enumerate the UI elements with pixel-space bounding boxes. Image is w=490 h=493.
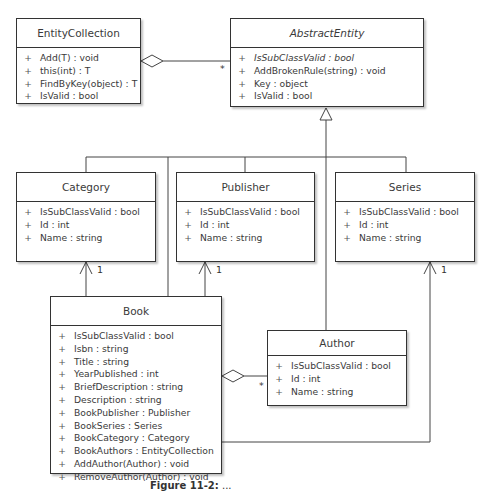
visibility-marker: + <box>339 219 355 232</box>
member-row: +Id : int <box>17 219 155 232</box>
visibility-marker: + <box>54 356 70 369</box>
class-members: +IsSubClassValid : bool +Id : int +Name … <box>268 356 406 398</box>
visibility-marker: + <box>20 206 36 219</box>
class-name: Series <box>336 173 474 202</box>
visibility-marker: + <box>234 65 250 78</box>
visibility-marker: + <box>271 373 287 386</box>
class-abstractentity[interactable]: AbstractEntity +IsSubClassValid : bool +… <box>230 18 424 107</box>
member-row: +IsSubClassValid : bool <box>177 206 314 219</box>
member-text: IsValid : bool <box>254 90 312 101</box>
member-row: +BriefDescription : string <box>51 381 221 394</box>
member-text: this(int) : T <box>40 65 90 76</box>
visibility-marker: + <box>234 52 250 65</box>
class-members: +Add(T) : void +this(int) : T +FindByKey… <box>17 48 140 103</box>
member-text: IsSubClassValid : bool <box>254 52 354 63</box>
member-row: +IsSubClassValid : bool <box>17 206 155 219</box>
visibility-marker: + <box>54 368 70 381</box>
member-row: +YearPublished : int <box>51 368 221 381</box>
multiplicity-label: * <box>259 380 264 391</box>
member-text: YearPublished : int <box>74 368 159 379</box>
member-row: +Name : string <box>177 232 314 245</box>
class-publisher[interactable]: Publisher +IsSubClassValid : bool +Id : … <box>176 172 315 262</box>
visibility-marker: + <box>339 206 355 219</box>
visibility-marker: + <box>54 471 70 484</box>
member-row: +Description : string <box>51 394 221 407</box>
member-row: +Title : string <box>51 356 221 369</box>
member-row: +IsValid : bool <box>17 90 140 103</box>
aggregation-diamond-icon <box>141 55 163 67</box>
visibility-marker: + <box>54 343 70 356</box>
member-text: Key : object <box>254 78 308 89</box>
visibility-marker: + <box>54 420 70 433</box>
visibility-marker: + <box>180 206 196 219</box>
class-members: +IsSubClassValid : bool +Id : int +Name … <box>17 202 155 244</box>
visibility-marker: + <box>54 432 70 445</box>
visibility-marker: + <box>339 232 355 245</box>
member-row: +Id : int <box>268 373 406 386</box>
member-row: +BookPublisher : Publisher <box>51 407 221 420</box>
class-members: +IsSubClassValid : bool +AddBrokenRule(s… <box>231 48 423 103</box>
member-row: +BookAuthors : EntityCollection <box>51 445 221 458</box>
member-text: BookCategory : Category <box>74 432 190 443</box>
visibility-marker: + <box>234 78 250 91</box>
member-text: AddAuthor(Author) : void <box>74 458 189 469</box>
member-row: +Isbn : string <box>51 343 221 356</box>
member-row: +BookSeries : Series <box>51 420 221 433</box>
visibility-marker: + <box>54 445 70 458</box>
member-text: Id : int <box>359 219 388 230</box>
class-book[interactable]: Book +IsSubClassValid : bool +Isbn : str… <box>50 296 222 474</box>
visibility-marker: + <box>20 219 36 232</box>
visibility-marker: + <box>20 90 36 103</box>
class-author[interactable]: Author +IsSubClassValid : bool +Id : int… <box>267 330 407 406</box>
member-text: Title : string <box>74 356 129 367</box>
visibility-marker: + <box>271 360 287 373</box>
member-text: Name : string <box>291 386 353 397</box>
member-row: +BookCategory : Category <box>51 432 221 445</box>
member-text: Name : string <box>40 232 102 243</box>
class-series[interactable]: Series +IsSubClassValid : bool +Id : int… <box>335 172 475 262</box>
class-members: +IsSubClassValid : bool +Id : int +Name … <box>336 202 474 244</box>
visibility-marker: + <box>54 330 70 343</box>
member-row: +IsSubClassValid : bool <box>268 360 406 373</box>
member-text: IsValid : bool <box>40 90 98 101</box>
visibility-marker: + <box>54 381 70 394</box>
member-row: +Name : string <box>17 232 155 245</box>
visibility-marker: + <box>20 65 36 78</box>
member-row: +AddAuthor(Author) : void <box>51 458 221 471</box>
uml-class-diagram: EntityCollection +Add(T) : void +this(in… <box>0 0 490 493</box>
member-row: +Id : int <box>336 219 474 232</box>
visibility-marker: + <box>54 407 70 420</box>
class-members: +IsSubClassValid : bool +Isbn : string +… <box>51 326 221 484</box>
class-name: Author <box>268 331 406 356</box>
visibility-marker: + <box>271 386 287 399</box>
member-row: +this(int) : T <box>17 65 140 78</box>
multiplicity-label: * <box>220 63 225 74</box>
member-text: IsSubClassValid : bool <box>200 206 300 217</box>
multiplicity-label: 1 <box>216 264 222 275</box>
member-text: Description : string <box>74 394 162 405</box>
generalization-triangle-icon <box>320 108 332 120</box>
member-text: IsSubClassValid : bool <box>359 206 459 217</box>
member-row: +Name : string <box>268 386 406 399</box>
member-text: Id : int <box>291 373 320 384</box>
member-text: Name : string <box>200 232 262 243</box>
class-category[interactable]: Category +IsSubClassValid : bool +Id : i… <box>16 172 156 262</box>
class-name: Book <box>51 297 221 326</box>
member-text: Isbn : string <box>74 343 128 354</box>
member-text: IsSubClassValid : bool <box>40 206 140 217</box>
member-row: +Name : string <box>336 232 474 245</box>
member-row: +Id : int <box>177 219 314 232</box>
class-entitycollection[interactable]: EntityCollection +Add(T) : void +this(in… <box>16 18 141 104</box>
visibility-marker: + <box>180 219 196 232</box>
member-row: +Key : object <box>231 78 423 91</box>
member-row: +IsSubClassValid : bool <box>51 330 221 343</box>
member-text: Name : string <box>359 232 421 243</box>
class-name: AbstractEntity <box>231 19 423 48</box>
member-text: BookSeries : Series <box>74 420 162 431</box>
member-row: +IsSubClassValid : bool <box>231 52 423 65</box>
member-text: BookAuthors : EntityCollection <box>74 445 214 456</box>
class-name: Category <box>17 173 155 202</box>
member-text: FindByKey(object) : T <box>40 78 137 89</box>
member-text: Id : int <box>200 219 229 230</box>
class-name: EntityCollection <box>17 19 140 48</box>
